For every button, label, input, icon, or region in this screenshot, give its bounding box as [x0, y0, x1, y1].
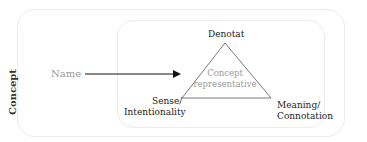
sense-line-1: Sense/ — [124, 96, 176, 107]
center-line-2: representative — [190, 79, 260, 90]
meaning-line-1: Meaning/ — [277, 100, 333, 111]
meaning-line-2: Connotation — [277, 111, 333, 122]
arrow-head-icon — [173, 70, 181, 78]
sense-label: Sense/ Intentionality — [124, 96, 176, 118]
center-line-1: Concept — [190, 68, 260, 79]
denotat-label: Denotat — [208, 29, 244, 40]
sense-line-2: Intentionality — [124, 107, 176, 118]
triangle-center-label: Concept representative — [190, 68, 260, 90]
meaning-label: Meaning/ Connotation — [277, 100, 333, 122]
